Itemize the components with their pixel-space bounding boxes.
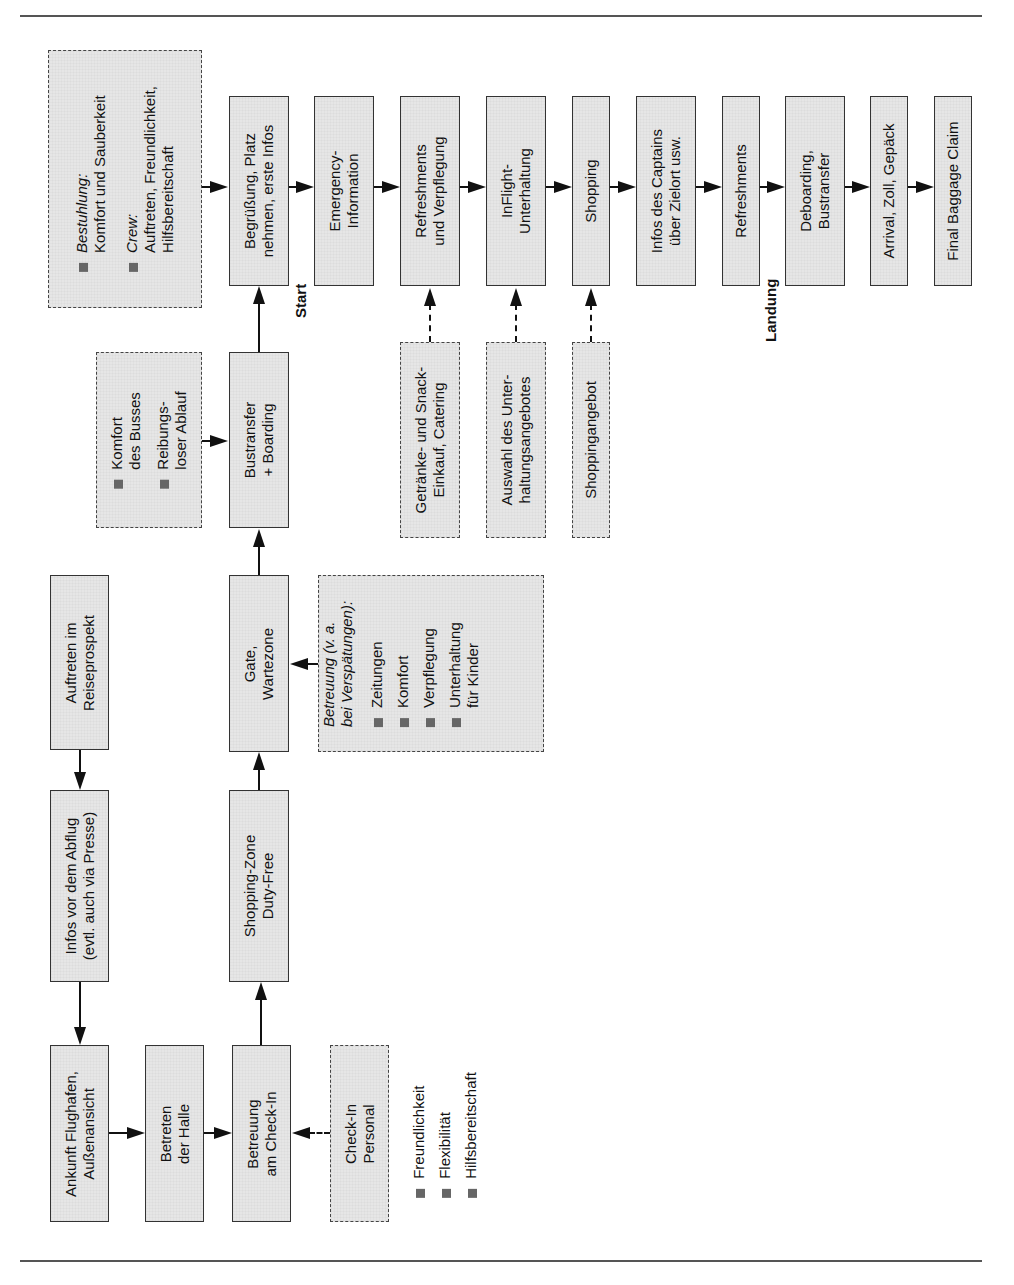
- bullet-icon: [426, 718, 435, 727]
- bullet-icon: [442, 1189, 451, 1198]
- dashed-connector: [202, 186, 210, 188]
- connector: [696, 186, 704, 188]
- bottom-rule: [20, 1260, 982, 1262]
- bullet-icon: [160, 480, 169, 489]
- step-label: Refreshments und Verpflegung: [412, 136, 448, 245]
- bus-item: Komfort: [108, 417, 125, 470]
- arrow-down-icon: [74, 772, 86, 790]
- top-rule: [20, 15, 982, 17]
- crew-text: Hilfsbereitschaft: [159, 86, 177, 272]
- bus-quality-text: Komfort des Busses Reibungs- loser Ablau…: [108, 391, 190, 488]
- step-begruessung: Begrüßung, Platz nehmen, erste Infos: [229, 96, 289, 286]
- betreuung-item: Unterhaltung: [446, 622, 463, 708]
- arrow-right-icon: [214, 1127, 232, 1139]
- attribute-item: Hilfsbereitschaft: [462, 1072, 479, 1179]
- betreuung-title: bei Verspätungen):: [338, 600, 356, 726]
- supply-label: Auswahl des Unter- haltungsangebotes: [498, 375, 534, 506]
- checkin-attributes-text: Freundlichkeit Flexibilität Hilfsbereits…: [410, 1072, 480, 1198]
- step-label: Shopping: [582, 159, 600, 222]
- attribute-item: Freundlichkeit: [410, 1085, 427, 1178]
- step-arrival: Arrival, Zoll, Gepäck: [870, 96, 908, 286]
- arrow-up-icon: [585, 288, 597, 306]
- step-label: Deboarding, Bustransfer: [797, 150, 833, 232]
- connector: [374, 186, 382, 188]
- step-label: Infos vor dem Abflug (evtl. auch via Pre…: [62, 812, 98, 960]
- bestuhlung-title: Bestuhlung:: [73, 174, 90, 253]
- step-bustransfer: Bustransfer + Boarding: [229, 352, 289, 528]
- step-label: Gate, Wartezone: [241, 628, 277, 700]
- step-label: Refreshments: [732, 144, 750, 237]
- betreuung-item: Zeitungen: [368, 641, 385, 708]
- step-gate: Gate, Wartezone: [229, 575, 289, 752]
- arrow-right-icon: [554, 181, 572, 193]
- step-label: Betreten der Halle: [157, 1103, 193, 1163]
- betreuung-item: Komfort: [394, 655, 411, 708]
- connector: [760, 186, 767, 188]
- connector: [546, 186, 554, 188]
- connector: [258, 544, 260, 575]
- arrow-right-icon: [127, 1127, 145, 1139]
- arrow-left-icon: [290, 658, 308, 670]
- betreuung-item: für Kinder: [464, 600, 482, 726]
- arrow-right-icon: [916, 181, 934, 193]
- bullet-icon: [400, 718, 409, 727]
- supply-label: Shoppingangebot: [582, 381, 600, 499]
- step-label: InFlight- Unterhaltung: [498, 148, 534, 234]
- connector: [204, 1132, 214, 1134]
- step-label: Emergency- Information: [326, 151, 362, 232]
- bus-quality-box: Komfort des Busses Reibungs- loser Ablau…: [96, 352, 202, 528]
- step-inflight: InFlight- Unterhaltung: [486, 96, 546, 286]
- supply-shoppingangebot: Shoppingangebot: [572, 342, 610, 538]
- step-label: Final Baggage Claim: [944, 121, 962, 260]
- step-betreuung-checkin: Betreuung am Check-In: [232, 1045, 291, 1222]
- attribute-item: Flexibilität: [436, 1112, 453, 1179]
- step-infos-captain: Infos des Captains über Zielort usw.: [636, 96, 696, 286]
- arrow-up-icon: [510, 288, 522, 306]
- bullet-icon: [416, 1189, 425, 1198]
- betreuung-text: Betreuung (v. a. bei Verspätungen): Zeit…: [320, 600, 482, 726]
- arrow-up-icon: [253, 752, 265, 770]
- dashed-connector: [309, 1132, 330, 1134]
- bullet-icon: [452, 718, 461, 727]
- arrow-up-icon: [253, 286, 265, 304]
- bus-item: Reibungs-: [154, 401, 171, 469]
- step-label: Arrival, Zoll, Gepäck: [880, 123, 898, 258]
- connector: [79, 982, 81, 1028]
- arrow-up-icon: [424, 288, 436, 306]
- bullet-icon: [374, 718, 383, 727]
- arrow-right-icon: [767, 181, 785, 193]
- step-auftreten: Auftreten im Reiseprospekt: [50, 575, 109, 750]
- arrow-up-icon: [255, 982, 267, 1000]
- dashed-connector: [515, 304, 517, 342]
- arrow-right-icon: [852, 181, 870, 193]
- step-label: Infos des Captains über Zielort usw.: [648, 129, 684, 253]
- bullet-icon: [468, 1189, 477, 1198]
- step-label: Auftreten im Reiseprospekt: [62, 615, 98, 711]
- arrow-right-icon: [210, 181, 228, 193]
- supply-label: Getränke- und Snack- Einkauf, Catering: [412, 367, 448, 514]
- step-refreshments-verpflegung: Refreshments und Verpflegung: [400, 96, 460, 286]
- crew-text: Auftreten, Freundlichkeit,: [141, 86, 159, 272]
- dashed-connector: [307, 663, 318, 665]
- step-emergency: Emergency- Information: [314, 96, 374, 286]
- betreuung-title: Betreuung (v. a.: [320, 600, 338, 726]
- bestuhlung-crew-text: Bestuhlung: Komfort und Sauberkeit Crew:…: [73, 86, 177, 272]
- step-refreshments: Refreshments: [722, 96, 760, 286]
- step-shopping-zone: Shopping-Zone Duty-Free: [229, 790, 289, 982]
- dashed-connector: [429, 304, 431, 342]
- arrow-down-icon: [74, 1027, 86, 1045]
- landung-label: Landung: [762, 279, 779, 342]
- bus-item: loser Ablauf: [172, 391, 190, 488]
- dashed-connector: [202, 440, 210, 442]
- bestuhlung-text: Komfort und Sauberkeit: [91, 86, 109, 272]
- arrow-right-icon: [296, 181, 314, 193]
- bullet-icon: [114, 480, 123, 489]
- step-shopping: Shopping: [572, 96, 610, 286]
- connector: [260, 998, 262, 1045]
- connector: [460, 186, 468, 188]
- checkin-personal-box: Check-In Personal: [330, 1045, 389, 1222]
- arrow-right-icon: [210, 435, 228, 447]
- step-label: Bustransfer + Boarding: [241, 402, 277, 479]
- arrow-up-icon: [253, 529, 265, 547]
- step-deboarding: Deboarding, Bustransfer: [785, 96, 845, 286]
